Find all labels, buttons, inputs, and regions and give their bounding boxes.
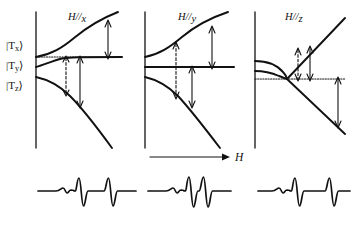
spectrum-y (148, 177, 231, 207)
panel-x-transitions (63, 20, 111, 108)
spectrum-z (258, 178, 350, 206)
level-label-ty: |Ty⟩ (6, 59, 23, 73)
magnetic-field-axis: H (150, 151, 244, 163)
panel-x: H//x (36, 11, 122, 148)
spectrum-z-trace (258, 178, 350, 206)
spectrum-x (38, 178, 136, 206)
level-label-tx: |Tx⟩ (6, 39, 23, 53)
panel-x-title: H//x (67, 11, 86, 24)
panel-y-lower-branch (145, 77, 220, 148)
panel-z-lower-branch (287, 79, 345, 134)
panel-z-transitions (295, 46, 341, 128)
panel-y-title: H//y (177, 11, 196, 24)
h-axis-arrowhead (222, 154, 230, 161)
h-axis-label: H (234, 151, 244, 163)
panel-y: H//y (145, 11, 234, 148)
panel-z-title: H//z (284, 11, 303, 24)
level-label-tz: |Tz⟩ (6, 79, 23, 93)
panel-z: H//z (255, 11, 345, 148)
zero-field-level-labels: |Tx⟩ |Ty⟩ |Tz⟩ (6, 39, 23, 93)
figure-canvas: |Tx⟩ |Ty⟩ |Tz⟩ H//x (0, 0, 355, 225)
spectrum-y-trace (148, 177, 231, 207)
panel-z-upper-branch (287, 18, 345, 79)
zeeman-triplet-figure: |Tx⟩ |Ty⟩ |Tz⟩ H//x (0, 0, 355, 225)
panel-x-lower-branch (36, 77, 112, 148)
spectrum-x-trace (38, 178, 136, 206)
